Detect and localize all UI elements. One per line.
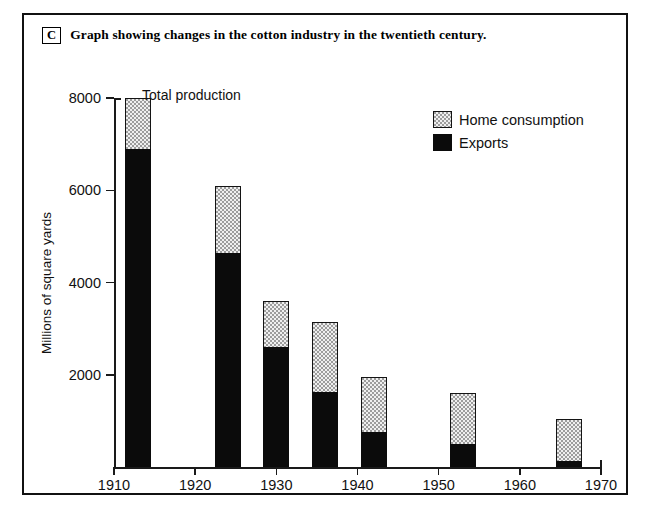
total-production-annotation: Total production (142, 87, 241, 103)
legend-item-exports: Exports (433, 134, 584, 151)
chart-legend: Home consumption Exports (433, 111, 584, 151)
y-tick-2000: 2000 (106, 374, 114, 376)
x-tick-1930 (276, 467, 278, 475)
x-tick-1910 (113, 467, 115, 475)
bar-segment-exports-1924 (215, 253, 241, 467)
x-tick-label-1940: 1940 (341, 477, 373, 493)
x-tick-1960 (519, 467, 521, 475)
bar-1953 (450, 393, 476, 467)
bar-1936 (312, 322, 338, 467)
bar-segment-exports-1966 (556, 461, 582, 467)
x-tick-1920 (194, 467, 196, 475)
bar-segment-home-consumption-1966 (556, 419, 582, 462)
chart-plot-area: Millions of square yards 200040006000800… (24, 15, 630, 497)
bar-segment-home-consumption-1953 (450, 393, 476, 444)
y-axis-line (114, 98, 116, 468)
bar-segment-exports-1913 (125, 149, 151, 467)
x-tick-label-1910: 1910 (98, 477, 130, 493)
bar-1930 (263, 301, 289, 467)
x-tick-label-1920: 1920 (179, 477, 211, 493)
x-tick-1940 (357, 467, 359, 475)
y-tick-4000: 4000 (106, 282, 114, 284)
x-tick-label-1960: 1960 (504, 477, 536, 493)
legend-swatch-home-consumption-icon (433, 111, 452, 128)
bar-segment-exports-1942 (361, 432, 387, 467)
bar-1913 (125, 98, 151, 467)
bar-segment-home-consumption-1942 (361, 377, 387, 432)
x-tick-1970 (600, 467, 602, 475)
bar-1966 (556, 419, 582, 467)
y-axis-title: Millions of square yards (39, 212, 54, 354)
figure-frame: C Graph showing changes in the cotton in… (22, 13, 628, 495)
x-tick-label-1950: 1950 (423, 477, 455, 493)
y-axis-top-cap (114, 98, 121, 100)
bar-segment-home-consumption-1913 (125, 98, 151, 149)
x-tick-1950 (438, 467, 440, 475)
bar-segment-exports-1936 (312, 392, 338, 467)
y-tick-label-2000: 2000 (69, 367, 101, 383)
bar-1924 (215, 186, 241, 467)
bar-segment-exports-1930 (263, 347, 289, 467)
x-tick-label-1970: 1970 (585, 477, 617, 493)
y-tick-6000: 6000 (106, 190, 114, 192)
bar-1942 (361, 377, 387, 467)
legend-swatch-exports-icon (433, 134, 452, 151)
bar-segment-home-consumption-1924 (215, 186, 241, 253)
y-tick-label-6000: 6000 (69, 182, 101, 198)
bar-segment-home-consumption-1936 (312, 322, 338, 393)
y-tick-8000: 8000 (106, 97, 114, 99)
legend-label-home-consumption: Home consumption (459, 112, 584, 128)
legend-label-exports: Exports (459, 135, 508, 151)
bar-segment-home-consumption-1930 (263, 301, 289, 347)
y-tick-label-4000: 4000 (69, 275, 101, 291)
legend-item-home-consumption: Home consumption (433, 111, 584, 128)
x-tick-label-1930: 1930 (260, 477, 292, 493)
y-tick-label-8000: 8000 (69, 90, 101, 106)
bar-segment-exports-1953 (450, 444, 476, 467)
